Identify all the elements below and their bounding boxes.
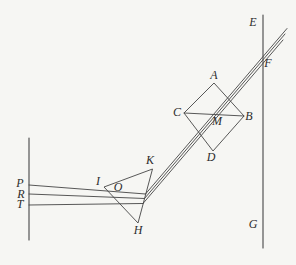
label-D: D — [207, 151, 216, 163]
optics-ray-diagram: E F G A C B M D K I O H P R T — [0, 0, 296, 265]
refracted-ray-P — [146, 29, 288, 195]
label-K: K — [146, 154, 154, 166]
label-E: E — [249, 16, 256, 28]
label-A: A — [210, 69, 217, 81]
incident-ray-P — [29, 185, 146, 194]
incident-ray-R — [29, 194, 145, 199]
label-G: G — [249, 218, 258, 230]
label-T: T — [17, 198, 24, 210]
label-F: F — [264, 57, 271, 69]
label-O: O — [114, 181, 123, 193]
label-C: C — [173, 106, 181, 118]
label-B: B — [245, 110, 252, 122]
label-I: I — [96, 175, 100, 187]
incident-ray-T — [29, 204, 143, 206]
prism-triangle-IKH — [104, 169, 153, 223]
label-H: H — [134, 224, 143, 236]
label-M: M — [212, 115, 222, 127]
